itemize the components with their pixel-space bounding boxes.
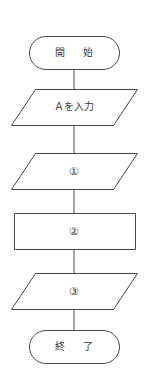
end-terminator-label: 終 了 (55, 340, 97, 352)
start-terminator-label: 開 始 (55, 46, 97, 58)
flowchart-canvas: 開 始 Ａを入力 ① ② ③ 終 了 (0, 0, 148, 386)
input-a-parallelogram[interactable]: Ａを入力 (12, 90, 138, 126)
step-2-process[interactable]: ② (15, 214, 136, 250)
step-3-parallelogram[interactable]: ③ (12, 274, 138, 310)
step-1-label: ① (69, 165, 79, 177)
input-a-label: Ａを入力 (54, 100, 94, 112)
flowchart-diagram: 開 始 Ａを入力 ① ② ③ 終 了 (0, 0, 148, 386)
step-1-parallelogram[interactable]: ① (12, 154, 138, 190)
end-terminator[interactable]: 終 了 (30, 331, 120, 364)
step-2-label: ② (69, 225, 79, 237)
step-3-label: ③ (69, 285, 79, 297)
start-terminator[interactable]: 開 始 (30, 37, 120, 70)
